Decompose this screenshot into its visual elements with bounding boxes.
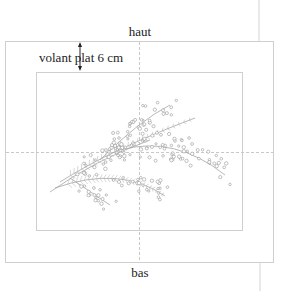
mimosa-flower — [150, 179, 153, 182]
mimosa-flower — [87, 190, 90, 193]
mimosa-flower — [145, 140, 147, 142]
leaflet — [149, 186, 152, 188]
leaflet — [72, 183, 76, 187]
mimosa-flower — [161, 143, 164, 146]
mimosa-flower — [139, 176, 142, 179]
mimosa-flower — [229, 183, 232, 186]
mimosa-flower — [145, 147, 148, 150]
mimosa-flower — [117, 146, 120, 149]
mimosa-flower — [154, 159, 157, 162]
mimosa-flower — [78, 190, 80, 192]
mimosa-flower — [144, 105, 147, 108]
leaflet — [100, 178, 103, 182]
inner-frame — [37, 73, 243, 231]
leaflet — [111, 175, 114, 179]
mimosa-flower — [118, 156, 121, 159]
leaflet — [146, 184, 149, 186]
mimosa-flower — [217, 161, 220, 164]
mimosa-flower — [181, 139, 183, 141]
mimosa-flower — [126, 135, 129, 138]
mimosa-flower — [138, 127, 141, 130]
mimosa-flower — [182, 146, 186, 150]
leaflet — [88, 180, 91, 184]
mimosa-flower — [185, 159, 188, 162]
mimosa-flower — [113, 138, 116, 141]
mimosa-flower — [102, 208, 104, 210]
mimosa-flower — [94, 159, 96, 161]
mimosa-flower — [94, 199, 97, 202]
mimosa-flower — [151, 134, 154, 137]
mimosa-flower — [196, 148, 199, 151]
mimosa-flower — [148, 156, 151, 159]
mimosa-flower — [141, 132, 144, 135]
mimosa-flower — [219, 176, 222, 179]
mimosa-flower — [175, 99, 177, 101]
mimosa-flower — [143, 123, 146, 126]
mimosa-flower — [170, 144, 173, 147]
mimosa-flower — [165, 112, 168, 115]
mimosa-flower — [124, 146, 127, 149]
mimosa-flower — [108, 151, 111, 154]
leaflet — [129, 178, 132, 181]
mimosa-flower — [122, 177, 125, 180]
mimosa-flower — [112, 131, 115, 134]
margin-label: volant plat 6 cm — [39, 50, 123, 65]
mimosa-flower — [134, 118, 137, 121]
mimosa-flower — [153, 108, 156, 111]
mimosa-flower — [170, 114, 173, 117]
mimosa-flower — [224, 162, 228, 166]
mimosa-flower — [182, 150, 185, 153]
mimosa-flower — [85, 164, 87, 166]
mimosa-flower — [93, 166, 96, 169]
mimosa-flower — [126, 130, 128, 132]
mimosa-flower — [148, 119, 151, 122]
leaflet — [84, 180, 88, 184]
mimosa-flower — [152, 125, 155, 128]
mimosa-flower — [123, 154, 127, 158]
mimosa-flower — [137, 178, 139, 180]
mimosa-flower — [170, 158, 173, 161]
leaflet — [97, 156, 98, 161]
leaflet — [162, 193, 164, 194]
mimosa-flowers — [76, 99, 231, 210]
mimosa-flower — [162, 112, 165, 115]
mimosa-flower — [127, 138, 129, 140]
mimosa-flower — [120, 143, 124, 147]
leaflet — [168, 129, 171, 131]
mimosa-flower — [128, 125, 131, 128]
leaflet — [68, 184, 72, 188]
mimosa-flower — [179, 158, 181, 160]
mimosa-flower — [101, 149, 105, 153]
mimosa-flower — [167, 132, 170, 135]
mimosa-flower — [150, 145, 153, 148]
leaflet — [92, 175, 94, 179]
mimosa-flower — [191, 143, 194, 146]
leaflet — [178, 124, 180, 126]
leaflet — [115, 179, 117, 183]
mimosa-flower — [189, 164, 192, 167]
leaflet — [115, 175, 118, 178]
leaflet — [162, 131, 165, 133]
leaflet — [122, 179, 124, 183]
leaflet — [80, 176, 82, 181]
mimosa-flower — [142, 184, 144, 186]
mimosa-flower — [186, 150, 188, 152]
mimosa-flower — [162, 155, 165, 158]
mimosa-flower — [83, 162, 86, 165]
mimosa-flower — [112, 141, 115, 144]
mimosa-flower — [159, 179, 162, 182]
leaflet — [153, 187, 156, 189]
mimosa-flower — [170, 106, 173, 109]
mimosa-flower — [76, 173, 79, 176]
top-label: haut — [129, 24, 152, 39]
mimosa-flower — [145, 128, 148, 131]
mimosa-illustration — [50, 99, 231, 210]
mimosa-flower — [129, 134, 131, 136]
mimosa-flower — [157, 187, 159, 189]
mimosa-flower — [112, 179, 115, 182]
mimosa-flower — [140, 119, 142, 121]
leaflet — [76, 182, 80, 186]
mimosa-flower — [137, 181, 141, 185]
mimosa-flower — [163, 147, 166, 150]
mimosa-flower — [117, 180, 120, 183]
